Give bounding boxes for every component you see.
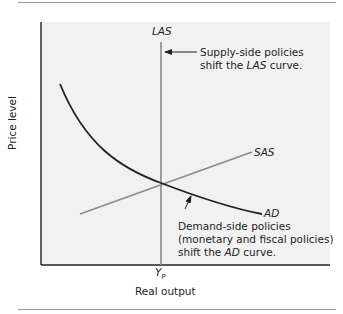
las-label: LAS — [152, 25, 172, 38]
ad-label: AD — [264, 207, 279, 220]
demand-annotation: Demand-side policies (monetary and fisca… — [178, 220, 334, 259]
sas-label: SAS — [254, 146, 275, 159]
demand-annotation-line3: shift the AD curve. — [178, 246, 334, 259]
demand-annotation-line2: (monetary and fiscal policies) — [178, 233, 334, 246]
supply-annotation-line1: Supply-side policies — [200, 46, 304, 59]
supply-annotation-line2: shift the LAS curve. — [200, 59, 304, 72]
supply-annotation: Supply-side policies shift the LAS curve… — [200, 46, 304, 72]
supply-line2-em: LAS — [247, 59, 267, 71]
x-tick-yp: YP — [155, 266, 166, 281]
y-axis-label: Price level — [6, 96, 18, 150]
bottom-rule — [18, 309, 336, 310]
demand-line3-em: AD — [225, 246, 240, 258]
x-tick-sub: P — [161, 273, 165, 281]
demand-arrow — [185, 196, 191, 209]
demand-line3-prefix: shift the — [178, 246, 225, 258]
supply-line2-suffix: curve. — [266, 59, 302, 71]
x-axis-label: Real output — [135, 285, 196, 298]
supply-line2-prefix: shift the — [200, 59, 247, 71]
demand-annotation-line1: Demand-side policies — [178, 220, 334, 233]
demand-line3-suffix: curve. — [240, 246, 276, 258]
